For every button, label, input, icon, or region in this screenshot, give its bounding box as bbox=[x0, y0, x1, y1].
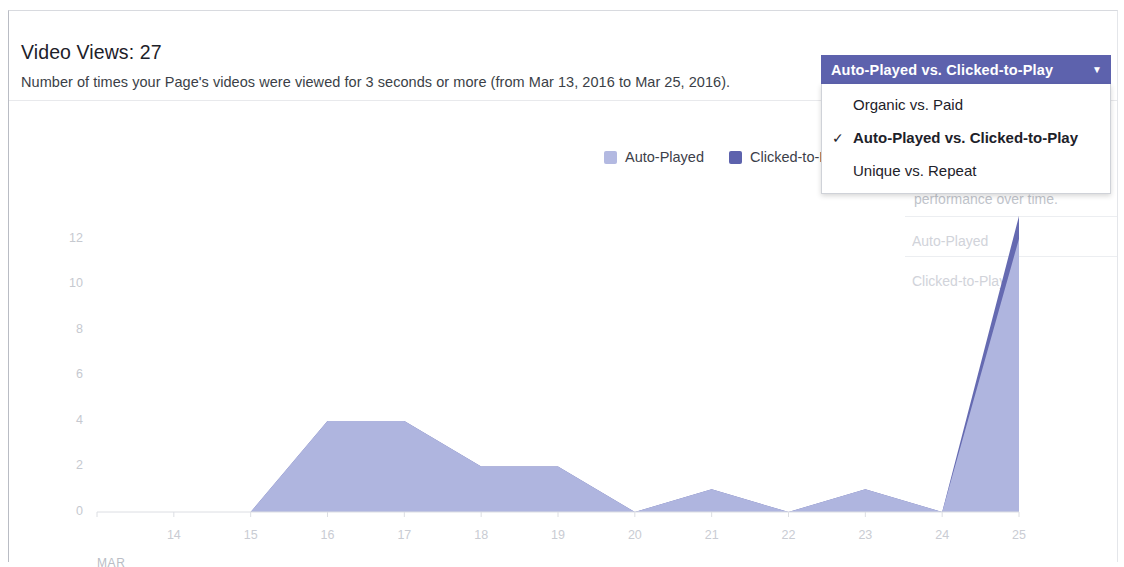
menu-item-auto-played-vs-clicked-to-play[interactable]: ✓Auto-Played vs. Clicked-to-Play bbox=[822, 121, 1110, 154]
x-axis-tick-label: 19 bbox=[543, 528, 573, 542]
y-axis-tick-label: 0 bbox=[57, 504, 83, 518]
menu-item-label: Organic vs. Paid bbox=[853, 96, 963, 113]
page-title: Video Views: 27 bbox=[21, 41, 162, 64]
metric-description: Number of times your Page's videos were … bbox=[21, 74, 730, 90]
x-axis-tick-label: 14 bbox=[159, 528, 189, 542]
x-axis-tick-label: 23 bbox=[850, 528, 880, 542]
x-axis-tick-label: 16 bbox=[313, 528, 343, 542]
series-area-auto-played bbox=[97, 239, 1019, 512]
video-views-card: Video Views: 27 Number of times your Pag… bbox=[8, 10, 1118, 562]
x-axis-tick-label: 20 bbox=[620, 528, 650, 542]
x-axis-tick-label: 15 bbox=[236, 528, 266, 542]
x-axis-tick-label: 25 bbox=[1004, 528, 1034, 542]
y-axis-tick-label: 8 bbox=[57, 322, 83, 336]
y-axis-tick-label: 10 bbox=[57, 276, 83, 290]
y-axis-tick-label: 12 bbox=[57, 231, 83, 245]
menu-item-label: Unique vs. Repeat bbox=[853, 162, 976, 179]
y-axis-tick-label: 6 bbox=[57, 367, 83, 381]
x-axis-tick-label: 17 bbox=[389, 528, 419, 542]
breakdown-selector-menu: Organic vs. Paid✓Auto-Played vs. Clicked… bbox=[821, 84, 1111, 194]
x-axis-tick-label: 21 bbox=[697, 528, 727, 542]
breakdown-selector-label: Auto-Played vs. Clicked-to-Play bbox=[831, 62, 1053, 78]
menu-item-label: Auto-Played vs. Clicked-to-Play bbox=[853, 129, 1078, 146]
y-axis-tick-label: 4 bbox=[57, 413, 83, 427]
y-axis-tick-label: 2 bbox=[57, 458, 83, 472]
breakdown-selector: Auto-Played vs. Clicked-to-Play ▼ Organi… bbox=[821, 55, 1111, 194]
menu-item-organic-vs-paid[interactable]: Organic vs. Paid bbox=[822, 88, 1110, 121]
menu-item-unique-vs-repeat[interactable]: Unique vs. Repeat bbox=[822, 154, 1110, 187]
x-axis-month-label: MAR bbox=[97, 556, 125, 567]
check-icon: ✓ bbox=[832, 130, 853, 146]
chevron-down-icon: ▼ bbox=[1092, 65, 1102, 75]
x-axis-tick-label: 22 bbox=[774, 528, 804, 542]
x-axis-tick-label: 18 bbox=[466, 528, 496, 542]
x-axis-tick-label: 24 bbox=[927, 528, 957, 542]
breakdown-selector-button[interactable]: Auto-Played vs. Clicked-to-Play ▼ bbox=[821, 55, 1111, 84]
axis-ticks bbox=[97, 512, 1019, 517]
